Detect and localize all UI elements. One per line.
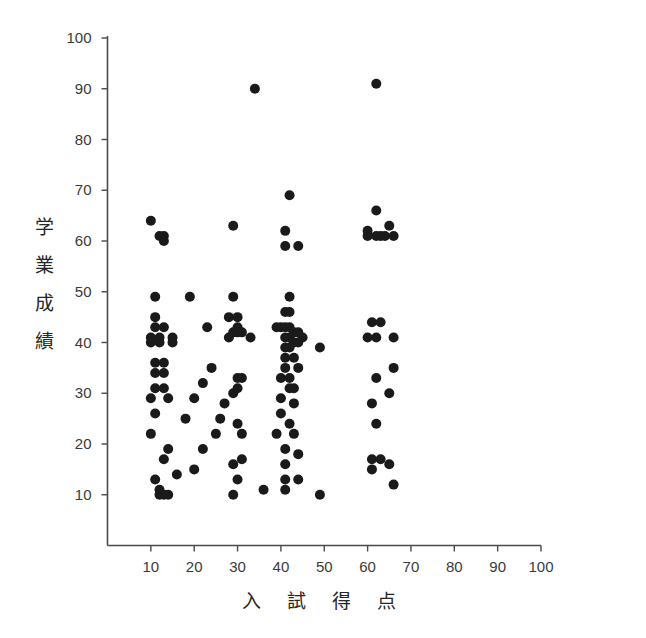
data-point [293,449,303,459]
y-tick-label: 20 [52,435,92,452]
data-point [163,444,173,454]
data-point [215,414,225,424]
data-point [280,353,290,363]
data-point [237,327,247,337]
scatter-plot-figure: 学 業 成 績 入 試 得 点 102030405060708090100 10… [0,0,646,638]
data-point [163,393,173,403]
data-point [146,216,156,226]
data-point [233,475,243,485]
x-tick-label: 80 [434,558,474,575]
data-point [150,322,160,332]
data-point [371,373,381,383]
data-point [220,398,230,408]
y-tick-label: 30 [52,384,92,401]
data-point [289,398,299,408]
x-tick-label: 90 [478,558,518,575]
data-point [367,398,377,408]
x-tick-label: 50 [304,558,344,575]
data-point [159,322,169,332]
data-point [293,338,303,348]
data-point [189,464,199,474]
data-point [380,231,390,241]
y-tick-label: 40 [52,334,92,351]
data-point [228,292,238,302]
data-points [146,79,399,500]
data-point [146,393,156,403]
data-point [289,353,299,363]
y-axis-title-char-2: 業 [35,256,54,275]
data-point [150,292,160,302]
data-point [293,475,303,485]
data-point [146,338,156,348]
data-point [289,429,299,439]
data-point [285,343,295,353]
data-point [289,383,299,393]
data-point [276,373,286,383]
data-point [172,469,182,479]
data-point [202,322,212,332]
data-point [389,231,399,241]
data-point [228,221,238,231]
data-point [384,388,394,398]
y-tick-label: 70 [52,181,92,198]
data-point [181,414,191,424]
data-point [150,409,160,419]
data-point [280,444,290,454]
data-point [285,292,295,302]
y-tick-label: 100 [52,29,92,46]
data-point [367,454,377,464]
data-point [150,368,160,378]
data-point [363,332,373,342]
data-point [159,236,169,246]
y-tick-label: 60 [52,232,92,249]
data-point [246,332,256,342]
data-point [168,338,178,348]
data-point [389,332,399,342]
data-point [155,338,165,348]
data-point [163,490,173,500]
data-point [159,368,169,378]
x-tick-label: 20 [174,558,214,575]
y-axis-ticks [102,38,108,495]
data-point [280,475,290,485]
data-point [285,307,295,317]
data-point [293,363,303,373]
x-axis-ticks [151,546,541,552]
data-point [237,373,247,383]
data-point [233,312,243,322]
data-point [293,241,303,251]
x-tick-label: 30 [218,558,258,575]
data-point [371,332,381,342]
y-tick-label: 10 [52,486,92,503]
data-point [228,490,238,500]
data-point [237,454,247,464]
data-point [159,454,169,464]
x-tick-label: 40 [261,558,301,575]
data-point [185,292,195,302]
data-point [285,373,295,383]
plot-area [0,0,646,638]
data-point [285,190,295,200]
data-point [228,388,238,398]
data-point [280,226,290,236]
data-point [224,312,234,322]
data-point [389,480,399,490]
data-point [150,383,160,393]
data-point [280,459,290,469]
data-point [276,409,286,419]
data-point [280,485,290,495]
data-point [224,332,234,342]
data-point [363,231,373,241]
data-point [189,393,199,403]
y-tick-label: 90 [52,80,92,97]
data-point [384,221,394,231]
data-point [371,79,381,89]
y-tick-label: 80 [52,131,92,148]
data-point [371,419,381,429]
axis-lines [108,36,542,546]
x-tick-label: 60 [348,558,388,575]
data-point [159,383,169,393]
data-point [198,378,208,388]
data-point [250,84,260,94]
data-point [198,444,208,454]
